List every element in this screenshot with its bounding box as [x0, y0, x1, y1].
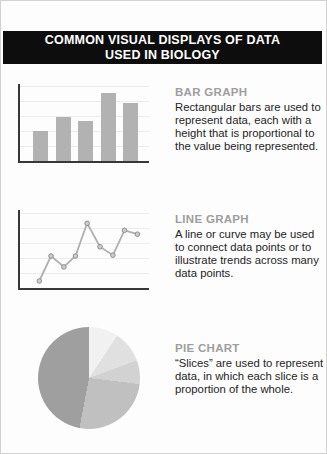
line-graph-heading: LINE GRAPH — [175, 213, 324, 226]
title-line-2: USED IN BIOLOGY — [3, 48, 322, 63]
bar-graph-heading: BAR GRAPH — [175, 86, 324, 99]
bar-graph-caption: BAR GRAPH Rectangular bars are used to r… — [175, 86, 324, 153]
bar-graph-bars — [20, 84, 149, 161]
bar-5 — [123, 103, 138, 161]
infographic-page: COMMON VISUAL DISPLAYS OF DATA USED IN B… — [0, 0, 327, 454]
bar-graph-figure — [18, 84, 149, 163]
line-graph-description: A line or curve may be used to connect d… — [175, 228, 324, 280]
title-banner: COMMON VISUAL DISPLAYS OF DATA USED IN B… — [3, 31, 322, 64]
data-point-1 — [37, 279, 42, 284]
data-point-8 — [122, 228, 127, 233]
pie-chart-caption: PIE CHART “Slices” are used to represent… — [175, 342, 324, 396]
data-point-3 — [62, 265, 67, 270]
bar-graph-description: Rectangular bars are used to represent d… — [175, 101, 324, 153]
data-point-6 — [98, 244, 103, 249]
bar-1 — [33, 131, 48, 161]
line-graph-figure — [18, 210, 149, 290]
data-point-2 — [49, 254, 54, 259]
bar-2 — [56, 117, 71, 161]
line-graph-svg — [20, 210, 149, 288]
pie-chart-description: “Slices” are used to represent data, in … — [175, 357, 324, 396]
pie-chart-heading: PIE CHART — [175, 342, 324, 355]
bar-4 — [101, 93, 116, 161]
data-point-9 — [135, 232, 140, 237]
bar-3 — [78, 121, 93, 161]
title-line-1: COMMON VISUAL DISPLAYS OF DATA — [3, 33, 322, 48]
data-point-7 — [111, 253, 116, 258]
pie-chart-figure — [38, 327, 140, 429]
data-point-4 — [73, 254, 78, 259]
data-point-5 — [85, 221, 90, 226]
line-graph-caption: LINE GRAPH A line or curve may be used t… — [175, 213, 324, 280]
